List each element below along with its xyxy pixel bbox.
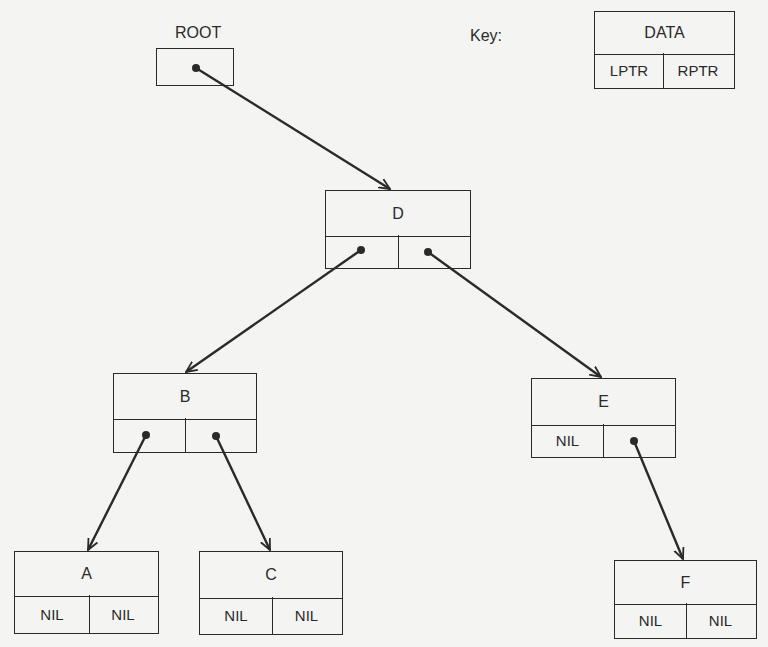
- node-lptr-field: NIL: [532, 424, 604, 457]
- edge-b-to-c: [216, 436, 270, 550]
- node-data-field: C: [200, 552, 342, 599]
- node-data-field: F: [615, 561, 756, 605]
- tree-node-b: B: [113, 373, 257, 453]
- node-data-field: D: [326, 191, 470, 237]
- tree-node-e: E NIL: [531, 378, 676, 458]
- root-label: ROOT: [175, 24, 221, 42]
- node-lptr-field: NIL: [15, 595, 90, 633]
- edge-d-to-e: [428, 252, 601, 377]
- tree-node-d: D: [325, 190, 471, 269]
- node-rptr-field: NIL: [271, 597, 342, 634]
- edge-root-to-d: [196, 68, 390, 189]
- node-data-field: B: [114, 374, 256, 420]
- node-data-field: E: [532, 379, 675, 426]
- node-lptr-field: [114, 418, 186, 452]
- node-data-field: A: [15, 552, 158, 597]
- node-rptr-field: [602, 424, 675, 457]
- tree-node-a: A NIL NIL: [14, 551, 159, 634]
- node-lptr-field: NIL: [615, 603, 687, 638]
- key-lptr-field: LPTR: [595, 53, 664, 88]
- node-lptr-field: [326, 235, 399, 268]
- node-lptr-field: NIL: [200, 597, 273, 634]
- key-data-field: DATA: [595, 12, 734, 55]
- key-node: DATA LPTR RPTR: [594, 11, 735, 89]
- key-label: Key:: [470, 27, 502, 45]
- key-rptr-field: RPTR: [662, 53, 734, 88]
- node-rptr-field: [184, 418, 256, 452]
- node-rptr-field: NIL: [685, 603, 756, 638]
- root-pointer-box: [156, 48, 234, 86]
- node-rptr-field: [397, 235, 470, 268]
- tree-node-f: F NIL NIL: [614, 560, 757, 639]
- tree-edges: [0, 0, 768, 647]
- edge-e-to-f: [634, 441, 683, 559]
- node-rptr-field: NIL: [88, 595, 158, 633]
- tree-node-c: C NIL NIL: [199, 551, 343, 635]
